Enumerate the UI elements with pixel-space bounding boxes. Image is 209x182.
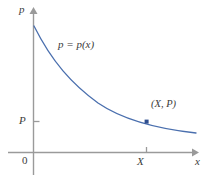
curve-equation-label: p = p(x) (58, 39, 94, 50)
y-axis-tick-label-P: P (19, 115, 26, 126)
data-point-marker (145, 120, 149, 124)
x-axis-tick-label-X: X (137, 156, 144, 167)
y-axis-arrowhead (30, 7, 38, 14)
data-point-label: (X, P) (151, 99, 176, 110)
y-axis-label: p (19, 4, 25, 15)
plot-canvas (0, 0, 209, 182)
origin-label: 0 (22, 155, 28, 166)
x-axis-label: x (195, 156, 200, 167)
supply-demand-curve-figure: p x P X 0 p = p(x) (X, P) (0, 0, 209, 182)
